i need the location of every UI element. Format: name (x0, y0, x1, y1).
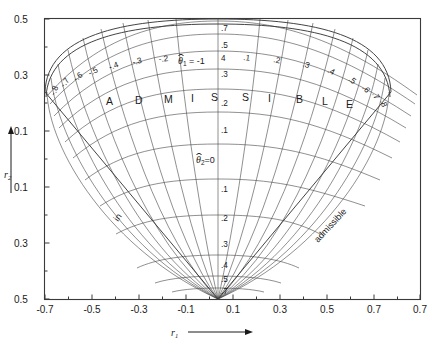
theta2-hat-equals-zero-label: θ2=0 (196, 153, 215, 166)
x-tick-label-5: 0.3 (273, 304, 287, 315)
region-label-left: in (111, 212, 123, 223)
x-tick-label-7: 0.7 (367, 304, 381, 315)
word-letter-7: B (296, 93, 303, 105)
word-letter-6: I (268, 92, 271, 104)
y-axis-tick-labels: 0.5 0.3 0.1 0.1 0.3 0.5 (14, 14, 28, 305)
theta1-right-labels: .1 .2 .3 .4 .5 .6 .7 .8 (243, 53, 389, 108)
theta1-label-value: = -1 (189, 56, 205, 66)
svg-text:-.2: -.2 (158, 54, 169, 64)
svg-text:.2: .2 (221, 214, 228, 223)
svg-text:-.3: -.3 (131, 56, 143, 67)
svg-text:θ2=0: θ2=0 (196, 154, 215, 166)
word-letter-0: A (106, 95, 113, 107)
region-label-right: admissible (312, 206, 348, 244)
svg-text:.4: .4 (326, 66, 337, 77)
chart-svg: -.8 -.7 -.6 -.5 -.4 -.3 -.2 θ1 = -1 .1 .… (0, 0, 437, 345)
admissible-word-letters: A D M I S S I B L E (106, 91, 353, 110)
x-axis-title-group: r1 (171, 327, 253, 339)
word-letter-8: L (322, 95, 328, 107)
theta2-label-value: =0 (205, 155, 215, 165)
y-axis-ticks (45, 19, 50, 299)
theta1-hat-equals-minus-one-label: θ1 = -1 (178, 54, 205, 67)
svg-text:-.5: -.5 (87, 65, 100, 78)
x-tick-label-8: 0.7 (413, 304, 427, 315)
svg-text:.5: .5 (221, 41, 228, 50)
svg-text:.7: .7 (221, 24, 228, 33)
y-tick-label-5: 0.5 (14, 294, 28, 305)
theta2-lower-labels: .1 .2 .3 .4 .5 .7 (221, 185, 228, 296)
word-letter-2: M (164, 93, 173, 105)
chart-figure: -.8 -.7 -.6 -.5 -.4 -.3 -.2 θ1 = -1 .1 .… (0, 0, 437, 345)
word-letter-5: S (242, 91, 249, 103)
svg-text:.2: .2 (221, 99, 228, 108)
svg-text:.6: .6 (360, 84, 372, 95)
x-axis-ticks (45, 295, 420, 300)
svg-text:.4: .4 (221, 261, 228, 270)
svg-text:4: 4 (221, 54, 226, 63)
y-tick-label-3: 0.1 (14, 182, 28, 193)
x-tick-label-3: -0.1 (177, 304, 195, 315)
x-tick-label-1: -0.5 (83, 304, 101, 315)
x-axis-tick-labels: -0.7 -0.5 -0.3 -0.1 0.1 0.3 0.5 0.7 0.7 (36, 304, 427, 315)
svg-text:.1: .1 (243, 53, 251, 63)
theta2-upper-labels: .7 .5 4 .3 .2 .1 (221, 24, 228, 135)
theta1-contour-group (47, 19, 389, 299)
svg-text:.3: .3 (221, 240, 228, 249)
svg-text:r1: r1 (171, 327, 178, 339)
word-letter-4: S (211, 91, 218, 103)
x-tick-label-2: -0.3 (130, 304, 148, 315)
theta2-contour-group (48, 21, 417, 292)
word-letter-1: D (135, 94, 143, 106)
svg-text:.1: .1 (221, 126, 228, 135)
x-tick-label-0: -0.7 (36, 304, 54, 315)
svg-text:.1: .1 (221, 185, 228, 194)
word-letter-9: E (346, 98, 353, 110)
svg-text:-.7: -.7 (58, 76, 71, 89)
svg-text:.3: .3 (221, 70, 228, 79)
x-tick-label-6: 0.5 (320, 304, 334, 315)
svg-text:θ1 = -1: θ1 = -1 (178, 55, 205, 67)
svg-text:.2: .2 (273, 55, 282, 65)
x-tick-label-4: 0.1 (226, 304, 240, 315)
y-tick-label-4: 0.3 (14, 238, 28, 249)
svg-text:.5: .5 (221, 275, 228, 284)
svg-text:.7: .7 (221, 287, 228, 296)
y-tick-label-0: 0.5 (14, 14, 28, 25)
word-letter-3: I (191, 92, 194, 104)
x-axis-title-sub: 1 (175, 332, 178, 339)
y-tick-label-2: 0.1 (14, 126, 28, 137)
y-tick-label-1: 0.3 (14, 70, 28, 81)
y-axis-title-group: r2 (4, 126, 14, 193)
